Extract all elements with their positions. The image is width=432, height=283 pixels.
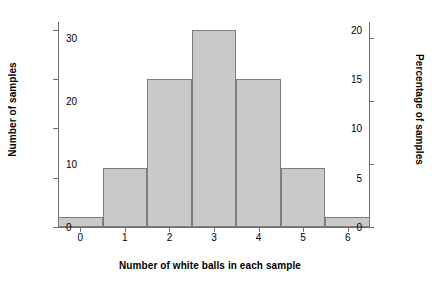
- y-axis-right-tick-label: 10: [66, 158, 92, 169]
- x-axis-tick-label: 1: [113, 232, 137, 243]
- x-axis-tick-label: 0: [68, 232, 92, 243]
- y-axis-left-title: Number of samples: [7, 50, 18, 170]
- y-axis-left-tick-mark: [53, 30, 58, 31]
- x-axis-title: Number of white balls in each sample: [60, 260, 360, 271]
- histogram-bar: [236, 79, 281, 227]
- y-axis-left-tick-label: 5: [336, 172, 362, 183]
- x-axis-tick-label: 2: [157, 232, 181, 243]
- histogram-figure: Number of samples Percentage of samples …: [0, 0, 432, 283]
- histogram-bar: [147, 79, 192, 227]
- histogram-bar: [192, 30, 237, 227]
- y-axis-left-tick-mark: [53, 178, 58, 179]
- y-axis-left-tick-label: 15: [336, 74, 362, 85]
- y-axis-right-title: Percentage of samples: [414, 50, 425, 170]
- y-axis-right-tick-label: 0: [66, 222, 92, 233]
- axis-spine-left: [58, 22, 59, 228]
- x-axis-tick-label: 4: [247, 232, 271, 243]
- y-axis-left-tick-label: 10: [336, 123, 362, 134]
- y-axis-left-tick-label: 0: [336, 222, 362, 233]
- y-axis-right-tick-mark: [369, 38, 374, 39]
- y-axis-right-tick-label: 30: [66, 32, 92, 43]
- y-axis-left-tick-label: 20: [336, 24, 362, 35]
- y-axis-right-tick-mark: [369, 227, 374, 228]
- y-axis-left-tick-mark: [53, 79, 58, 80]
- histogram-bar: [103, 168, 148, 227]
- x-axis-tick-label: 3: [202, 232, 226, 243]
- x-axis-tick-label: 6: [336, 232, 360, 243]
- y-axis-right-tick-mark: [369, 164, 374, 165]
- y-axis-left-tick-mark: [53, 227, 58, 228]
- y-axis-right-tick-mark: [369, 101, 374, 102]
- histogram-bar: [281, 168, 326, 227]
- y-axis-left-tick-mark: [53, 128, 58, 129]
- y-axis-right-tick-label: 20: [66, 95, 92, 106]
- axis-spine-right: [369, 22, 370, 228]
- plot-area: 05101520 0102030 0123456: [58, 22, 370, 228]
- x-axis-tick-label: 5: [291, 232, 315, 243]
